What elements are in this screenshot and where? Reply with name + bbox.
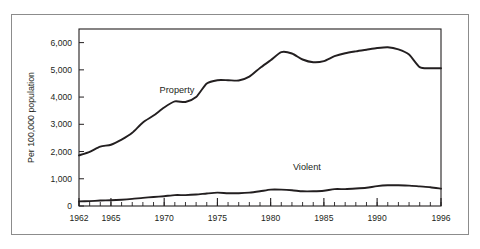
plot-frame-rect <box>79 29 441 206</box>
chart-figure: 01,0002,0003,0004,0005,0006,000 19621965… <box>0 0 480 249</box>
x-tick-label: 1970 <box>155 213 174 223</box>
figure-outer-border: 01,0002,0003,0004,0005,0006,000 19621965… <box>11 14 469 235</box>
series-label-violent: Violent <box>293 162 321 172</box>
y-tick-label: 0 <box>67 201 72 211</box>
y-tick-label: 4,000 <box>50 92 72 102</box>
x-tick-label: 1996 <box>431 213 450 223</box>
x-tick-label: 1980 <box>261 213 280 223</box>
y-tick-label: 5,000 <box>50 65 72 75</box>
y-tick-label: 1,000 <box>50 174 72 184</box>
x-tick-label: 1975 <box>208 213 227 223</box>
y-tick-label: 3,000 <box>50 119 72 129</box>
x-tick-label: 1990 <box>368 213 387 223</box>
line-chart: 01,0002,0003,0004,0005,0006,000 19621965… <box>12 15 468 234</box>
plot-area-border <box>79 29 441 206</box>
y-tick-label: 6,000 <box>50 38 72 48</box>
x-tick-label: 1962 <box>69 213 88 223</box>
y-tick-label: 2,000 <box>50 147 72 157</box>
series-label-property: Property <box>160 85 195 95</box>
x-axis-tick-labels: 19621965197019751980198519901996 <box>69 213 450 223</box>
y-axis-tick-labels: 01,0002,0003,0004,0005,0006,000 <box>50 38 72 211</box>
y-axis-title: Per 100,000 population <box>26 72 36 163</box>
x-tick-label: 1965 <box>101 213 120 223</box>
x-tick-label: 1985 <box>314 213 333 223</box>
